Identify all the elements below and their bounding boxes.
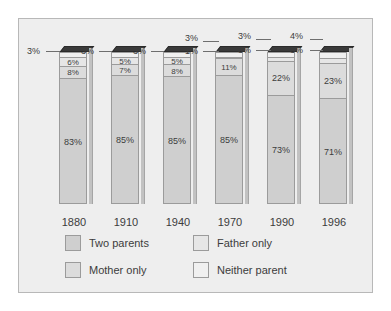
callout-leader-father-1996 [310, 50, 323, 51]
bar-1990: 22% 73% [267, 52, 297, 204]
segment-mother-only: 23% [320, 64, 346, 99]
chart-legend: Two parents Father only Mother only Neit… [65, 235, 335, 278]
segment-label-mother-only: 8% [164, 66, 190, 75]
segment-label-two-parents: 73% [268, 145, 294, 155]
bar-side-face [141, 48, 145, 204]
callout-neither-1970: 3% [185, 33, 198, 43]
legend-item-father-only: Father only [193, 235, 333, 251]
bar-stack-1880: 6% 8% 83% [59, 52, 87, 204]
segment-two-parents: 85% [112, 76, 138, 204]
segment-mother-only: 11% [216, 59, 242, 76]
bar-stack-1940: 5% 8% 85% [163, 52, 191, 204]
callout-father-1970: 1% [185, 46, 198, 56]
bar-stack-1910: 5% 7% 85% [111, 52, 139, 204]
segment-mother-only: 8% [60, 67, 86, 79]
bar-1996: 23% 71% [319, 52, 349, 204]
chart-frame: 6% 8% 83% 3% 1880 5% 7 [18, 18, 373, 293]
callout-father-1996: 3% [290, 45, 303, 55]
callout-leader-neither-1970 [203, 41, 219, 42]
callout-neither-1940: 3% [133, 46, 146, 56]
callout-leader-1880 [46, 51, 60, 52]
legend-label-mother-only: Mother only [89, 264, 146, 276]
segment-two-parents: 71% [320, 99, 346, 204]
bar-side-face [349, 48, 353, 204]
callout-leader-neither-1996 [310, 39, 323, 40]
callout-leader-1940 [151, 51, 164, 52]
bar-side-face [297, 48, 301, 204]
year-label-1996: 1996 [314, 216, 354, 228]
segment-label-mother-only: 11% [216, 63, 242, 72]
segment-label-mother-only: 22% [268, 73, 294, 83]
legend-swatch-neither-parent [193, 262, 209, 278]
callout-neither-1990: 3% [238, 31, 251, 41]
year-label-1970: 1970 [210, 216, 250, 228]
segment-label-father-only: 5% [164, 56, 190, 65]
legend-swatch-two-parents [65, 235, 81, 251]
segment-two-parents: 73% [268, 96, 294, 204]
callout-neither-1880: 3% [27, 46, 40, 56]
callout-father-1990: 3% [238, 45, 251, 55]
segment-mother-only: 22% [268, 62, 294, 95]
bar-side-face [193, 48, 197, 204]
bar-side-face [245, 48, 249, 204]
segment-father-only: 5% [112, 58, 138, 66]
bar-stack-1970: 11% 85% [215, 52, 243, 204]
segment-label-mother-only: 7% [112, 65, 138, 74]
bar-side-face [89, 48, 93, 204]
segment-label-mother-only: 23% [320, 76, 346, 86]
legend-item-mother-only: Mother only [65, 262, 193, 278]
year-label-1880: 1880 [54, 216, 94, 228]
segment-label-father-only: 5% [112, 56, 138, 65]
bar-1880: 6% 8% 83% [59, 52, 89, 204]
segment-label-two-parents: 85% [164, 136, 190, 146]
callout-leader-1910 [99, 51, 112, 52]
callout-neither-1910: 3% [81, 46, 94, 56]
callout-leader-father-1970 [203, 51, 219, 52]
year-label-1990: 1990 [262, 216, 302, 228]
year-label-1940: 1940 [158, 216, 198, 228]
segment-two-parents: 83% [60, 79, 86, 204]
legend-label-father-only: Father only [217, 237, 272, 249]
bar-1910: 5% 7% 85% [111, 52, 141, 204]
legend-label-two-parents: Two parents [89, 237, 149, 249]
bar-1970: 11% 85% [215, 52, 245, 204]
bar-1940: 5% 8% 85% [163, 52, 193, 204]
bar-stack-1990: 22% 73% [267, 52, 295, 204]
year-label-1910: 1910 [106, 216, 146, 228]
legend-label-neither-parent: Neither parent [217, 264, 287, 276]
legend-swatch-mother-only [65, 262, 81, 278]
segment-mother-only: 8% [164, 65, 190, 77]
legend-item-two-parents: Two parents [65, 235, 193, 251]
callout-leader-neither-1990 [256, 39, 271, 40]
segment-label-mother-only: 8% [60, 68, 86, 77]
segment-label-father-only: 6% [60, 57, 86, 66]
segment-label-two-parents: 85% [112, 135, 138, 145]
bar-stack-1996: 23% 71% [319, 52, 347, 204]
segment-label-two-parents: 83% [60, 137, 86, 147]
segment-label-two-parents: 85% [216, 135, 242, 145]
segment-father-only: 5% [164, 58, 190, 66]
legend-item-neither-parent: Neither parent [193, 262, 333, 278]
segment-mother-only: 7% [112, 65, 138, 76]
segment-label-two-parents: 71% [320, 147, 346, 157]
callout-neither-1996: 4% [290, 31, 303, 41]
segment-father-only: 6% [60, 58, 86, 67]
legend-swatch-father-only [193, 235, 209, 251]
segment-two-parents: 85% [216, 76, 242, 204]
callout-leader-father-1990 [256, 50, 271, 51]
segment-two-parents: 85% [164, 77, 190, 204]
